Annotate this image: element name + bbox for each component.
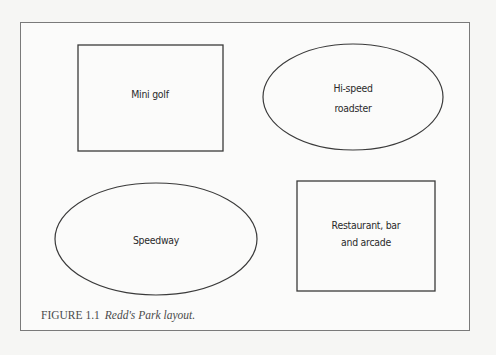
mini-golf-label: Mini golf	[108, 86, 193, 103]
speedway-label: Speedway	[114, 232, 199, 249]
label-line: and arcade	[315, 234, 417, 251]
label-line: Speedway	[114, 232, 199, 249]
restaurant-bar-arcade-label: Restaurant, bar and arcade	[315, 217, 417, 251]
label-line: Restaurant, bar	[315, 217, 417, 234]
label-line: Hi-speed	[311, 80, 396, 97]
hi-speed-roadster-label: Hi-speed roadster	[311, 80, 396, 117]
figure-number: FIGURE 1.1	[41, 309, 100, 321]
figure-title: Redd's Park layout.	[105, 309, 195, 321]
label-line: Mini golf	[108, 86, 193, 103]
layout-shapes	[0, 0, 496, 355]
figure-caption: FIGURE 1.1Redd's Park layout.	[41, 309, 195, 321]
label-line: roadster	[311, 100, 396, 117]
